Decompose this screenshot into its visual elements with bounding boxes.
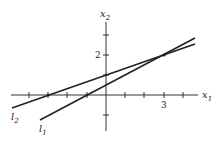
x-axis-label: x1 (202, 89, 212, 103)
y-axis-label: x2 (100, 8, 111, 22)
l2-x-intercept-dot (47, 94, 50, 97)
line-l1 (40, 38, 195, 120)
x-tick-label-3: 3 (161, 100, 167, 110)
y-tick-label-2: 2 (95, 50, 101, 60)
line-l2-label: l2 (11, 111, 19, 125)
l2-y-intercept-dot (105, 74, 108, 77)
diagram-canvas: x2 x1 3 2 l2 l1 (0, 0, 221, 144)
line-l2 (12, 44, 195, 108)
intersection-dot (162, 53, 165, 56)
l1-x-intercept-dot (86, 94, 89, 97)
line-l1-label: l1 (39, 123, 47, 137)
